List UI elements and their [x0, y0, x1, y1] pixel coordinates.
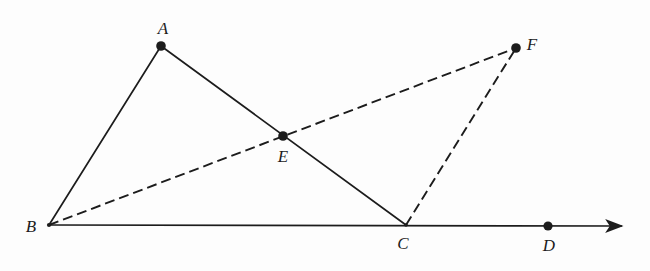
point-marker-f	[511, 43, 521, 53]
point-label-d: D	[543, 237, 555, 254]
point-marker-a	[156, 41, 166, 51]
point-marker-b	[47, 223, 51, 227]
geometry-figure: A B C D E F	[0, 0, 650, 271]
point-marker-d	[543, 221, 552, 230]
segment-ba	[49, 46, 161, 225]
segment-cf-dashed	[406, 48, 516, 225]
point-label-e: E	[278, 148, 288, 165]
point-marker-c	[404, 223, 408, 227]
point-label-c: C	[397, 235, 408, 252]
ray-bd	[49, 225, 622, 226]
point-label-a: A	[158, 20, 168, 37]
point-marker-e	[278, 131, 288, 141]
diagram-canvas	[0, 0, 650, 271]
point-label-f: F	[527, 36, 537, 53]
point-label-b: B	[26, 218, 36, 235]
